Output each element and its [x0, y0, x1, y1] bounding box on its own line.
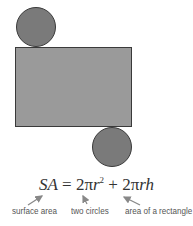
label-area-of-rectangle: area of a rectangle: [125, 205, 192, 216]
cylinder-net-diagram: SA = 2πr2 + 2πrh surface area two circle…: [0, 0, 193, 226]
label-surface-area: surface area: [12, 205, 57, 216]
arrow-rectangle-icon: [124, 197, 140, 205]
arrow-two-circles-icon: [83, 196, 87, 204]
label-two-circles: two circles: [71, 205, 109, 216]
annotation-arrows: [0, 0, 193, 226]
arrow-surface-area-icon: [28, 196, 42, 205]
